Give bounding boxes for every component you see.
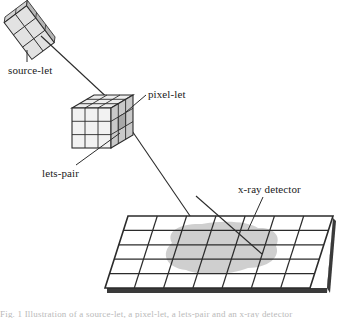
label-source-let: source-let xyxy=(8,64,52,76)
figure-caption-clipped: Fig. 1 Illustration of a source-let, a p… xyxy=(0,310,337,318)
figure-diagram-canvas xyxy=(0,0,337,318)
lets-pair-cube xyxy=(72,95,133,148)
label-xray-detector: x-ray detector xyxy=(238,183,301,195)
source-let-panel xyxy=(2,0,58,59)
label-pixel-let: pixel-let xyxy=(148,88,186,100)
cube-front-face xyxy=(72,108,111,148)
label-lets-pair: lets-pair xyxy=(42,167,79,179)
figure-root: source-let pixel-let lets-pair x-ray det… xyxy=(0,0,337,318)
